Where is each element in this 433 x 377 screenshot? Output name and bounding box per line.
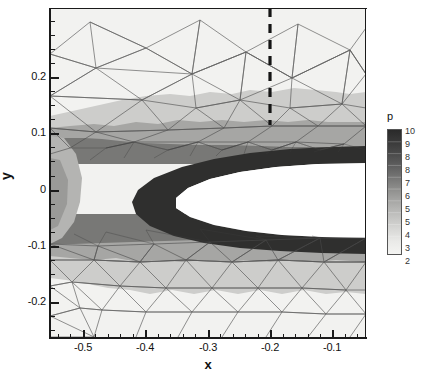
- plot-area: [50, 8, 366, 337]
- x-tick-minor: [258, 334, 259, 338]
- x-tick-major: [83, 330, 85, 338]
- x-tick-label: -0.1: [310, 341, 354, 353]
- y-tick-major: [51, 246, 59, 248]
- colorbar-title: p: [387, 110, 393, 122]
- x-tick-major: [208, 330, 210, 338]
- x-tick-minor: [308, 334, 309, 338]
- x-tick-label: -0.4: [123, 341, 167, 353]
- colorbar-tick-label: 8: [405, 153, 410, 162]
- colorbar-tick-label: 2: [405, 257, 410, 266]
- x-axis-title: x: [0, 357, 416, 372]
- x-tick-label: -0.5: [61, 341, 105, 353]
- x-tick-label: -0.2: [248, 341, 292, 353]
- x-tick-major: [145, 330, 147, 338]
- x-tick-label: -0.3: [186, 341, 230, 353]
- x-tick-minor: [295, 334, 296, 338]
- x-tick-minor: [133, 334, 134, 338]
- x-tick-minor: [320, 334, 321, 338]
- y-tick-minor: [51, 147, 55, 148]
- y-tick-minor: [51, 119, 55, 120]
- y-axis-tick-labels: 0.2 0.1 0 -0.1 -0.2: [10, 0, 46, 377]
- y-tick-minor: [51, 330, 55, 331]
- y-tick-minor: [51, 316, 55, 317]
- y-tick-major: [51, 302, 59, 304]
- figure-canvas: -0.5 -0.4 -0.3 -0.2 -0.1 0.2 0.1 0: [0, 0, 433, 377]
- y-tick-label: -0.1: [12, 239, 46, 251]
- x-tick-major: [332, 330, 334, 338]
- y-tick-minor: [51, 161, 55, 162]
- y-tick-major: [51, 190, 59, 192]
- colorbar-tick-label: 7: [405, 179, 410, 188]
- colorbar-tick-label: 5: [405, 205, 410, 214]
- x-tick-minor: [220, 334, 221, 338]
- x-tick-minor: [95, 334, 96, 338]
- plot-top-border: [49, 8, 367, 9]
- x-tick-minor: [345, 334, 346, 338]
- y-tick-minor: [51, 232, 55, 233]
- x-tick-minor: [245, 334, 246, 338]
- y-tick-major: [51, 77, 59, 79]
- y-tick-minor: [51, 35, 55, 36]
- y-tick-minor: [51, 260, 55, 261]
- x-tick-minor: [70, 334, 71, 338]
- colorbar-tick-label: 5: [405, 218, 410, 227]
- x-tick-minor: [233, 334, 234, 338]
- y-tick-minor: [51, 176, 55, 177]
- y-tick-major: [51, 133, 59, 135]
- x-tick-minor: [58, 334, 59, 338]
- colorbar-tick-label: 10: [405, 127, 415, 136]
- y-tick-minor: [51, 274, 55, 275]
- y-tick-minor: [51, 204, 55, 205]
- colorbar-tick-label: 6: [405, 192, 410, 201]
- x-tick-minor: [195, 334, 196, 338]
- y-axis-title: y: [0, 172, 14, 180]
- y-tick-minor: [51, 49, 55, 50]
- y-axis-spine: [49, 8, 51, 339]
- y-tick-minor: [51, 218, 55, 219]
- colorbar: p 10 9 8 8 7: [376, 110, 433, 262]
- y-tick-label: 0.2: [12, 70, 46, 82]
- contour-mesh-plot: [50, 8, 366, 337]
- y-tick-minor: [51, 63, 55, 64]
- x-tick-major: [270, 330, 272, 338]
- y-tick-minor: [51, 105, 55, 106]
- x-tick-minor: [170, 334, 171, 338]
- y-tick-minor: [51, 21, 55, 22]
- y-tick-label: -0.2: [12, 295, 46, 307]
- y-tick-label: 0.1: [12, 126, 46, 138]
- y-tick-label: 0: [12, 183, 46, 195]
- x-tick-minor: [158, 334, 159, 338]
- x-tick-minor: [183, 334, 184, 338]
- colorbar-tick-label: 8: [405, 166, 410, 175]
- colorbar-tick-label: 4: [405, 231, 410, 240]
- plot-right-border: [365, 8, 366, 339]
- colorbar-tick-labels: 10 9 8 8 7 6 5 5 4 3 2: [405, 124, 427, 260]
- colorbar-tick-label: 9: [405, 140, 410, 149]
- y-tick-minor: [51, 91, 55, 92]
- colorbar-tick-label: 3: [405, 244, 410, 253]
- x-tick-minor: [108, 334, 109, 338]
- x-tick-minor: [357, 334, 358, 338]
- y-tick-minor: [51, 288, 55, 289]
- x-tick-minor: [283, 334, 284, 338]
- x-tick-minor: [120, 334, 121, 338]
- colorbar-gradient: [387, 129, 402, 255]
